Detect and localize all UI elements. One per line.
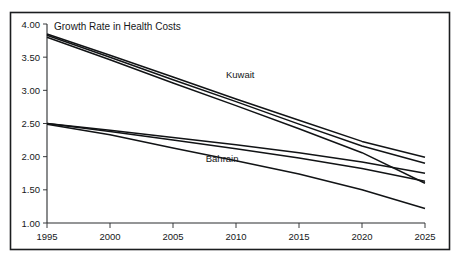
- y-tick-label: 3.50: [22, 52, 41, 63]
- series-label-bahrain: Bahrain: [206, 153, 239, 164]
- growth-rate-line-chart: 1.001.502.002.503.003.504.00 19952000200…: [0, 0, 461, 266]
- figure-background: [0, 0, 461, 266]
- x-tick-label: 2025: [414, 231, 435, 242]
- y-tick-label: 1.50: [22, 184, 41, 195]
- y-tick-label: 3.00: [22, 85, 41, 96]
- x-tick-label: 2010: [225, 231, 246, 242]
- x-tick-label: 2020: [351, 231, 372, 242]
- y-tick-label: 2.50: [22, 118, 41, 129]
- series-label-kuwait: Kuwait: [226, 69, 255, 80]
- x-tick-label: 2005: [162, 231, 183, 242]
- chart-title: Growth Rate in Health Costs: [54, 21, 181, 32]
- y-tick-label: 2.00: [22, 151, 41, 162]
- x-tick-label: 2000: [99, 231, 120, 242]
- x-tick-label: 1995: [36, 231, 57, 242]
- y-tick-label: 4.00: [22, 19, 41, 30]
- x-tick-label: 2015: [288, 231, 309, 242]
- chart-figure: 1.001.502.002.503.003.504.00 19952000200…: [0, 0, 461, 266]
- y-tick-label: 1.00: [22, 218, 41, 229]
